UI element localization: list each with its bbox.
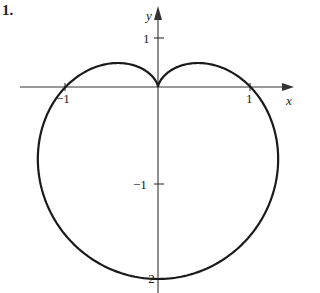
x-axis-label: x [286, 94, 292, 107]
y-tick-label-1: 1 [143, 32, 150, 45]
y-tick-label--1: −1 [133, 178, 147, 191]
x-tick-label-1: 1 [246, 92, 253, 105]
axes [20, 10, 286, 293]
y-axis-arrow-icon [154, 6, 162, 20]
x-tick-label--1: −1 [56, 92, 70, 105]
x-axis-arrow-icon [282, 83, 294, 91]
y-tick-label--2: −2 [141, 272, 155, 285]
y-axis-label: y [146, 9, 152, 22]
